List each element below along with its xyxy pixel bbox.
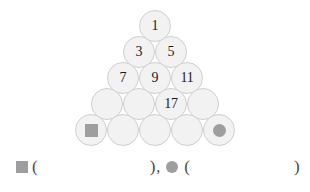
ball-number: 17: [164, 97, 178, 111]
dot-open-paren: (: [184, 158, 190, 175]
square-close-paren: ): [150, 158, 156, 175]
ball-number: 3: [136, 45, 143, 59]
pyramid-ball-r5c4[interactable]: [171, 114, 203, 146]
pyramid-ball-r5c5[interactable]: [203, 114, 235, 146]
answer-separator: ,: [156, 158, 160, 176]
square-marker-icon: [85, 124, 98, 137]
square-marker-icon: [16, 161, 28, 173]
number-pyramid: 1 3 5 7 9 11 17: [0, 0, 310, 145]
pyramid-ball-r5c2[interactable]: [107, 114, 139, 146]
answer-line: ( ) , ( ): [0, 152, 310, 182]
pyramid-ball-r5c1[interactable]: [75, 114, 107, 146]
ball-number: 11: [180, 71, 193, 85]
circle-marker-icon: [166, 161, 178, 173]
square-open-paren: (: [32, 158, 38, 175]
pyramid-ball-r5c3[interactable]: [139, 114, 171, 146]
ball-number: 9: [152, 71, 159, 85]
dot-close-paren: ): [294, 158, 300, 175]
ball-number: 7: [120, 71, 127, 85]
ball-number: 5: [168, 45, 175, 59]
circle-marker-icon: [213, 124, 226, 137]
ball-number: 1: [152, 19, 159, 33]
